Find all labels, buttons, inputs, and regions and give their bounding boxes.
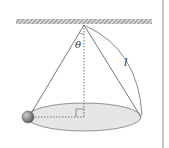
- length-arc: [86, 26, 142, 115]
- angle-label: θ: [75, 39, 81, 50]
- ceiling: [16, 19, 152, 24]
- pendulum-bob: [22, 111, 34, 123]
- conical-pendulum-diagram: θ l: [0, 0, 169, 148]
- length-label: l: [124, 56, 128, 69]
- angle-arc: [80, 33, 85, 34]
